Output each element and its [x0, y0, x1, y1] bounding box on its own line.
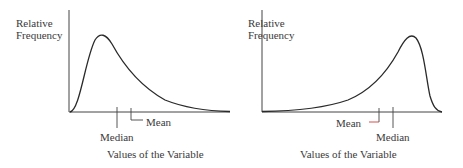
right-median-label: Median — [376, 131, 410, 143]
left-median-label: Median — [100, 131, 134, 143]
right-ylabel-line2: Frequency — [248, 29, 294, 41]
left-chart — [69, 10, 230, 128]
right-xlabel: Values of the Variable — [300, 148, 397, 160]
right-mean-label: Mean — [336, 117, 361, 129]
left-mean-label: Mean — [146, 116, 171, 128]
right-ylabel-line1: Relative — [248, 17, 285, 29]
left-curve — [70, 35, 230, 112]
left-xlabel: Values of the Variable — [107, 148, 204, 160]
right-curve — [262, 36, 442, 112]
left-ylabel-line1: Relative — [16, 17, 53, 29]
right-chart — [262, 10, 442, 128]
left-ylabel-line2: Frequency — [16, 29, 62, 41]
